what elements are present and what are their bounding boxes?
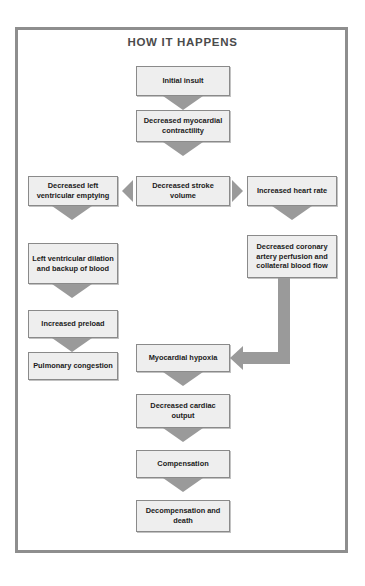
connector-lv-emptying-to-lv-dilation <box>52 206 92 220</box>
connector-elbow-horizontal <box>243 352 290 364</box>
connector-elbow-arrowhead <box>230 346 243 370</box>
connector-heart-rate-to-coronary-perfusion <box>272 206 312 220</box>
node-increased-heart-rate: Increased heart rate <box>247 176 337 206</box>
connector-stroke-volume-to-lv-emptying <box>122 180 133 202</box>
node-decreased-stroke-volume: Decreased stroke volume <box>136 176 230 206</box>
connector-hypoxia-to-cardiac-output <box>163 372 203 386</box>
connector-compensation-to-decompensation <box>163 478 203 492</box>
connector-preload-to-pulmonary-congestion <box>52 338 92 352</box>
node-decreased-cardiac-output: Decreased cardiac output <box>136 394 230 428</box>
node-left-ventricular-dilation: Left ventricular dilation and backup of … <box>28 243 118 284</box>
connector-initial-to-contractility <box>163 96 203 110</box>
connector-contractility-to-stroke-volume <box>163 142 203 156</box>
node-decreased-left-ventricular-emptying: Decreased left ventricular emptying <box>28 176 118 206</box>
node-increased-preload: Increased preload <box>28 310 118 338</box>
node-decreased-myocardial-contractility: Decreased myocardial contractility <box>136 110 230 142</box>
connector-lv-dilation-to-preload <box>52 284 92 298</box>
diagram-page: HOW IT HAPPENS Initial insult Decreased … <box>0 0 365 586</box>
page-title: HOW IT HAPPENS <box>0 36 365 48</box>
connector-cardiac-output-to-compensation <box>163 428 203 442</box>
connector-elbow-vertical <box>278 278 290 358</box>
node-initial-insult: Initial insult <box>136 66 230 96</box>
connector-stroke-volume-to-heart-rate <box>232 180 243 202</box>
node-decompensation-and-death: Decompensation and death <box>136 500 230 532</box>
node-compensation: Compensation <box>136 450 230 478</box>
node-pulmonary-congestion: Pulmonary congestion <box>28 352 118 380</box>
node-myocardial-hypoxia: Myocardial hypoxia <box>136 344 230 372</box>
node-decreased-coronary-artery-perfusion: Decreased coronary artery perfusion and … <box>247 235 337 278</box>
